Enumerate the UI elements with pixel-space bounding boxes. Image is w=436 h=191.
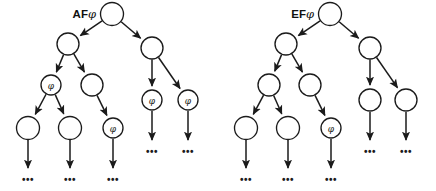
node-label-phi: φ <box>48 81 55 91</box>
tree-edge <box>274 96 282 114</box>
tree-edge <box>159 57 180 88</box>
tree-node[interactable] <box>299 74 321 96</box>
tree-node[interactable] <box>59 117 82 140</box>
ellipsis-mark: ••• <box>146 146 158 157</box>
tree-ef-tree: φ•••••••••••••••EFφ <box>235 3 418 185</box>
ellipsis-mark: ••• <box>107 174 119 185</box>
node-label-phi: φ <box>149 96 156 106</box>
node-circle <box>299 74 321 96</box>
tree-edge <box>253 95 263 114</box>
node-circle <box>359 89 381 111</box>
tree-edge <box>315 95 325 115</box>
tree-node[interactable]: φ <box>142 90 162 110</box>
node-circle <box>319 3 342 26</box>
node-circle <box>395 89 417 111</box>
tree-node[interactable] <box>81 74 103 96</box>
tree-node[interactable] <box>235 117 258 140</box>
tree-node[interactable] <box>395 89 417 111</box>
computation-tree-diagram: φφφφ•••••••••••••••AFφφ•••••••••••••••EF… <box>0 0 436 191</box>
tree-edge <box>377 57 398 87</box>
tree-edge <box>275 55 282 72</box>
node-circle <box>141 37 163 59</box>
node-circle <box>59 117 82 140</box>
tree-node[interactable] <box>141 37 163 59</box>
tree-node[interactable] <box>258 74 280 96</box>
tree-node[interactable] <box>277 117 300 140</box>
tree-title-ef: EFφ <box>291 7 314 21</box>
tree-node[interactable] <box>57 33 79 55</box>
tree-edge <box>298 21 320 36</box>
ellipsis-mark: ••• <box>182 146 194 157</box>
nodes-group: φφφφ <box>17 3 199 140</box>
ellipsis-mark: ••• <box>240 174 252 185</box>
tree-edge <box>55 95 64 114</box>
trees-group: φφφφ•••••••••••••••AFφφ•••••••••••••••EF… <box>17 3 418 185</box>
tree-edge <box>80 21 102 36</box>
node-circle <box>277 117 300 140</box>
ellipsis-group: ••••••••••••••• <box>22 146 194 185</box>
ellipsis-mark: ••• <box>64 174 76 185</box>
tree-edge <box>339 22 358 39</box>
tree-node[interactable]: φ <box>103 118 123 138</box>
tree-title-phi: φ <box>88 7 96 21</box>
tree-edge <box>292 54 303 72</box>
node-circle <box>275 33 297 55</box>
tree-node[interactable]: φ <box>178 90 198 110</box>
tree-title-operator: EF <box>291 8 306 20</box>
node-circle <box>235 117 258 140</box>
ctl-semantics-figure: φφφφ•••••••••••••••AFφφ•••••••••••••••EF… <box>0 0 436 191</box>
tree-node[interactable] <box>319 3 342 26</box>
tree-edge <box>56 55 63 72</box>
node-circle <box>81 74 103 96</box>
tree-node[interactable] <box>275 33 297 55</box>
ellipsis-group: ••••••••••••••• <box>240 146 412 185</box>
node-label-phi: φ <box>328 124 335 134</box>
tree-title-phi: φ <box>306 7 314 21</box>
ellipsis-mark: ••• <box>282 174 294 185</box>
tree-af-tree: φφφφ•••••••••••••••AFφ <box>17 3 199 185</box>
tree-node[interactable] <box>359 89 381 111</box>
tree-node[interactable] <box>101 3 124 26</box>
ellipsis-mark: ••• <box>364 146 376 157</box>
tree-title-af: AFφ <box>73 7 96 21</box>
tree-node[interactable] <box>17 117 40 140</box>
tree-edge <box>97 95 107 115</box>
ellipsis-mark: ••• <box>325 174 337 185</box>
tree-node[interactable]: φ <box>321 118 341 138</box>
tree-edge <box>121 22 140 39</box>
node-label-phi: φ <box>110 124 117 134</box>
node-circle <box>17 117 40 140</box>
ellipsis-mark: ••• <box>400 146 412 157</box>
node-circle <box>101 3 124 26</box>
tree-title-operator: AF <box>73 8 88 20</box>
ellipsis-mark: ••• <box>22 174 34 185</box>
node-circle <box>258 74 280 96</box>
tree-edge <box>74 54 85 72</box>
node-circle <box>57 33 79 55</box>
tree-node[interactable]: φ <box>41 75 61 95</box>
tree-node[interactable] <box>359 37 381 59</box>
nodes-group: φ <box>235 3 418 140</box>
node-label-phi: φ <box>185 96 192 106</box>
tree-edge <box>35 94 46 114</box>
node-circle <box>359 37 381 59</box>
